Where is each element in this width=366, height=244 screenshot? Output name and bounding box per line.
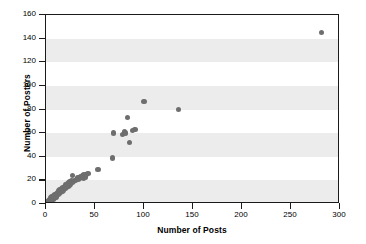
background-band [46,180,338,203]
y-axis-tick-label: 120 [0,57,36,65]
data-point [141,99,146,104]
y-axis-tick [39,179,45,180]
y-axis-tick [39,109,45,110]
x-axis-tick [290,203,291,209]
y-axis-tick-label: 140 [0,34,36,42]
y-axis-tick-label: 60 [0,128,36,136]
data-point [95,167,100,172]
x-axis-tick-label: 50 [74,211,114,219]
data-point [132,127,137,132]
y-axis-tick [39,85,45,86]
x-axis-tick-label: 250 [270,211,310,219]
data-point [125,115,130,120]
y-axis-tick-label: 20 [0,175,36,183]
x-axis-tick-label: 100 [123,211,163,219]
plot-area [45,14,339,203]
y-axis-tick [39,61,45,62]
y-axis-tick-label: 40 [0,152,36,160]
background-band [46,86,338,110]
y-axis-tick-label: 160 [0,10,36,18]
y-axis-tick-label: 0 [0,199,36,207]
data-point [110,155,115,160]
data-point [123,130,128,135]
y-axis-tick-label: 80 [0,105,36,113]
y-axis-tick [39,38,45,39]
x-axis-tick [94,203,95,209]
y-axis-tick [39,132,45,133]
data-point [85,171,90,176]
x-axis-title: Number of Posts [45,225,339,235]
y-axis-tick [39,14,45,15]
y-axis-tick [39,156,45,157]
x-axis-tick [241,203,242,209]
x-axis-tick-label: 0 [25,211,65,219]
background-band [46,133,338,157]
x-axis-tick-label: 150 [172,211,212,219]
x-axis-tick [45,203,46,209]
x-axis-tick [143,203,144,209]
data-point [176,107,181,112]
x-axis-tick [339,203,340,209]
background-band [46,39,338,63]
x-axis-tick-label: 200 [221,211,261,219]
x-axis-tick [192,203,193,209]
scatter-chart-figure: Number of Posters Number of Posts 020406… [0,0,366,244]
y-axis-tick-label: 100 [0,81,36,89]
data-point [319,30,324,35]
x-axis-tick-label: 300 [319,211,359,219]
